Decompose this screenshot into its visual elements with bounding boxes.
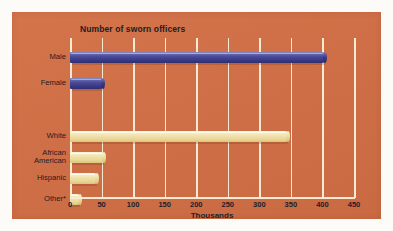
bar-shadow	[72, 142, 288, 144]
category-label: White	[47, 132, 66, 141]
category-label-line: Female	[41, 79, 66, 88]
x-tick-label: 200	[190, 200, 203, 209]
x-tick-label: 100	[127, 200, 140, 209]
category-label: Hispanic	[37, 174, 66, 183]
x-axis-line	[70, 197, 355, 199]
chart-plate: Number of sworn officers MaleFemaleWhite…	[12, 12, 381, 219]
bar-end-cap	[101, 78, 105, 89]
bar	[70, 78, 103, 89]
bar-shadow	[72, 89, 103, 91]
category-label: Male	[50, 53, 66, 62]
x-tick-label: 150	[158, 200, 171, 209]
x-axis-label: Thousands	[70, 211, 354, 220]
bar	[70, 131, 288, 142]
bar-end-cap	[286, 131, 290, 142]
screenshot-root: Number of sworn officers MaleFemaleWhite…	[0, 0, 393, 231]
plot-area	[70, 38, 354, 198]
x-tick-label: 450	[348, 200, 361, 209]
chart-title: Number of sworn officers	[80, 24, 185, 34]
bar-end-cap	[323, 52, 327, 63]
category-label-line: Hispanic	[37, 174, 66, 183]
category-label: Female	[41, 79, 66, 88]
category-label: Other*	[44, 195, 66, 204]
bar-end-cap	[102, 152, 106, 163]
category-label: AfricanAmerican	[34, 149, 66, 166]
category-label-line: Other*	[44, 195, 66, 204]
category-axis-labels: MaleFemaleWhiteAfricanAmericanHispanicOt…	[12, 12, 66, 219]
category-label-line: Male	[50, 53, 66, 62]
x-tick-label: 250	[222, 200, 235, 209]
x-tick-label: 350	[285, 200, 298, 209]
x-tick-label: 50	[97, 200, 105, 209]
bar-shadow	[72, 163, 104, 165]
bar-shadow	[72, 63, 325, 65]
bar	[70, 152, 104, 163]
category-label-line: White	[47, 132, 66, 141]
bar	[70, 173, 97, 184]
x-tick-label: 400	[316, 200, 329, 209]
bar-end-cap	[95, 173, 99, 184]
bar	[70, 52, 325, 63]
bar-shadow	[72, 184, 97, 186]
x-tick-label: 0	[68, 200, 72, 209]
category-label-line: American	[34, 157, 66, 166]
x-tick-label: 300	[253, 200, 266, 209]
gridline	[354, 38, 356, 198]
